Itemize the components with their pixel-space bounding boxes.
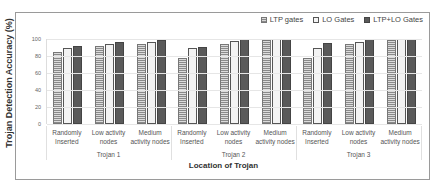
x-category-label: Mediumactivity nodes (374, 128, 426, 146)
y-tick-label: 20 (25, 104, 41, 110)
y-tick-label: 80 (25, 53, 41, 59)
bar-lo (355, 42, 364, 124)
bar-ltp (262, 40, 271, 124)
bar-both (365, 39, 374, 124)
bar-both (282, 39, 291, 124)
plot-area: 020406080100 (46, 39, 422, 124)
group-separator (421, 126, 422, 160)
gridline (47, 124, 422, 125)
group-separator (296, 126, 297, 160)
y-axis-title-text: Trojan Detection Accuracy (%) (4, 18, 14, 148)
gridline (47, 73, 422, 74)
legend-item-lo: LO Gates (313, 15, 354, 24)
bar-lo (188, 48, 197, 124)
bar-both (407, 39, 416, 124)
bar-ltp (53, 52, 62, 124)
x-axis-title: Location of Trojan (0, 161, 447, 170)
bar-lo (272, 39, 281, 124)
bar-ltp (387, 40, 396, 124)
ltp-lo-swatch-icon (364, 17, 370, 23)
bars (47, 39, 422, 124)
bar-ltp (95, 46, 104, 124)
x-group-label: Trojan 3 (309, 151, 409, 158)
bar-both (115, 42, 124, 124)
y-tick-label: 40 (25, 87, 41, 93)
bar-lo (63, 48, 72, 125)
legend-label: LTP gates (270, 15, 304, 24)
bar-lo (147, 42, 156, 124)
bar-lo (230, 41, 239, 124)
group-separator (46, 126, 47, 160)
legend-item-ltp-lo: LTP+LO Gates (364, 15, 423, 24)
y-tick-label: 60 (25, 70, 41, 76)
bar-lo (313, 48, 322, 124)
gridline (47, 39, 422, 40)
y-tick-label: 100 (25, 36, 41, 42)
x-group-label: Trojan 2 (184, 151, 284, 158)
legend-label: LO Gates (322, 15, 354, 24)
y-tick-label: 0 (25, 121, 41, 127)
bar-lo (397, 39, 406, 124)
bar-both (240, 39, 249, 124)
group-separator (171, 126, 172, 160)
gridline (47, 90, 422, 91)
lo-swatch-icon (313, 17, 319, 23)
bar-both (73, 46, 82, 124)
bar-both (157, 40, 166, 124)
ltp-swatch-icon (261, 17, 267, 23)
legend-item-ltp: LTP gates (261, 15, 304, 24)
legend: LTP gates LO Gates LTP+LO Gates (261, 15, 423, 24)
x-group-label: Trojan 1 (59, 151, 159, 158)
bar-both (198, 47, 207, 124)
y-axis-title: Trojan Detection Accuracy (%) (2, 28, 16, 138)
gridline (47, 56, 422, 57)
gridline (47, 107, 422, 108)
legend-label: LTP+LO Gates (373, 15, 423, 24)
